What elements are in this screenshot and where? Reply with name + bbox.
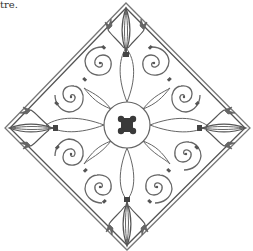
center-rosette (104, 102, 150, 148)
ironwork-diamond-illustration (0, 0, 253, 251)
